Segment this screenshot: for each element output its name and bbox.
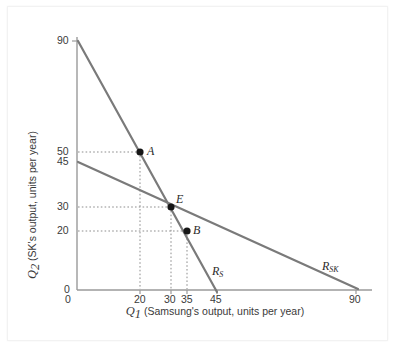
data-point-b: [183, 227, 190, 234]
point-label-b: B: [193, 223, 200, 238]
figure-container: 90 50 45 30 20 0 0 20 30 35 45 90 A E B …: [0, 0, 393, 351]
x-tick-label-0: 0: [65, 294, 71, 305]
y-tick-label-30: 30: [57, 201, 69, 212]
point-label-e: E: [176, 192, 183, 207]
curve-label-rs-sub: S: [219, 270, 223, 279]
reaction-function-chart: [0, 0, 393, 351]
y-tick-label-45: 45: [57, 156, 69, 167]
curve-label-rsk: RSK: [322, 259, 339, 274]
x-axis-title-text: (Samsung's output, units per year): [141, 305, 304, 317]
y-tick-label-20: 20: [57, 225, 69, 236]
curve-label-rs: RS: [212, 264, 223, 279]
curve-label-rsk-sub: SK: [329, 265, 338, 274]
guide-lines: [78, 152, 187, 289]
y-axis-title-symbol: Q: [25, 270, 39, 279]
data-point-a: [136, 148, 143, 155]
data-point-e: [167, 203, 174, 210]
x-tick-label-90: 90: [349, 294, 361, 305]
curve-rs: [78, 41, 217, 292]
y-axis-title-text: (SK's output, units per year): [26, 131, 38, 264]
y-tick-label-90: 90: [57, 35, 69, 46]
x-axis-title: Q1 (Samsung's output, units per year): [95, 304, 335, 322]
x-axis-title-symbol: Q: [126, 304, 135, 318]
point-label-a: A: [147, 144, 154, 159]
y-axis-title-subscript: 2: [28, 264, 42, 270]
y-axis-title: Q2 (SK's output, units per year): [25, 125, 43, 285]
